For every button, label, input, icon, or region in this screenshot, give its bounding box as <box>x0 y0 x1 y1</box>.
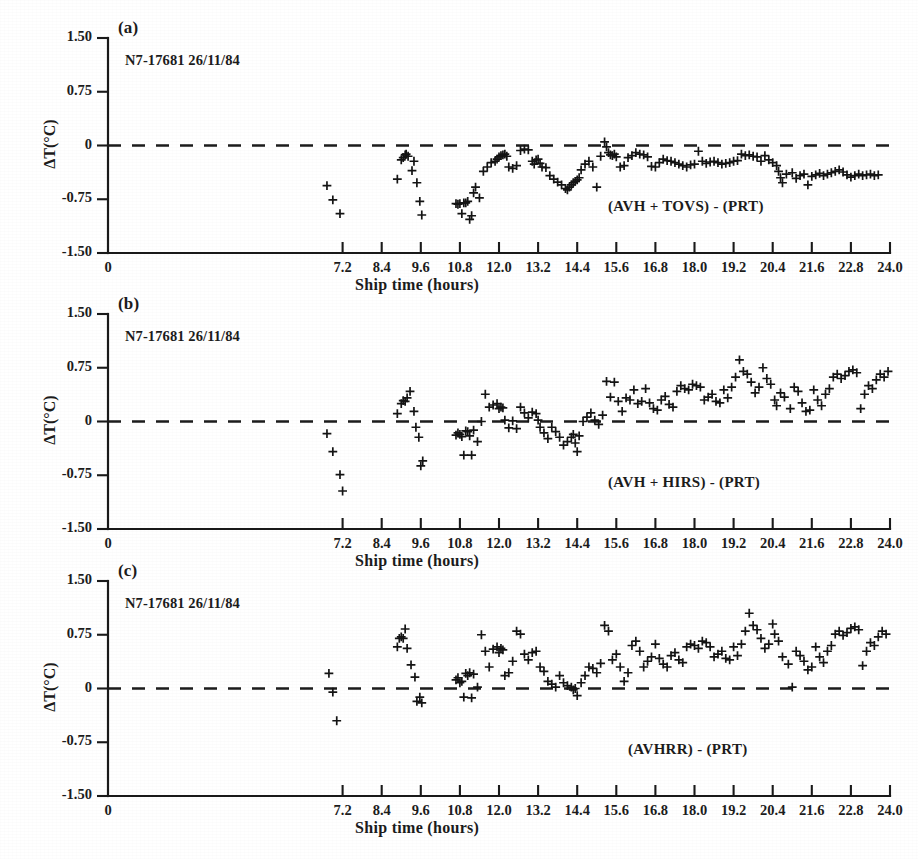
y-tick-label: -0.75 <box>10 189 92 206</box>
data-point <box>860 390 869 399</box>
data-point <box>602 143 611 152</box>
data-point <box>856 404 865 413</box>
data-point <box>694 147 703 156</box>
panel-c-tag: (c) <box>118 561 137 581</box>
data-point <box>414 433 423 442</box>
x-tick-label: 0 <box>80 259 136 276</box>
y-tick-label: 1.50 <box>10 28 92 45</box>
data-point <box>737 640 746 649</box>
y-tick-label: -0.75 <box>10 465 92 482</box>
panel-c: (c) N7-17681 26/11/84 (AVHRR) - (PRT) ΔT… <box>0 543 918 859</box>
data-point <box>473 437 482 446</box>
data-point <box>600 138 609 147</box>
data-point <box>481 390 490 399</box>
data-point <box>323 429 332 438</box>
data-point <box>733 651 742 660</box>
panel-c-series-id: N7-17681 26/11/84 <box>125 595 240 612</box>
data-point <box>467 451 476 460</box>
data-point <box>759 363 768 372</box>
data-point <box>614 397 623 406</box>
data-point <box>770 396 779 405</box>
data-point <box>620 677 629 686</box>
data-point <box>606 393 615 402</box>
data-point <box>512 424 521 433</box>
panel-a-plot <box>0 0 918 290</box>
panel-c-plot <box>0 543 918 833</box>
data-point <box>788 683 797 692</box>
x-tick-label: 24.0 <box>862 802 918 819</box>
data-point <box>798 398 807 407</box>
data-point <box>410 407 419 416</box>
y-tick-label: -1.50 <box>10 243 92 260</box>
data-point <box>534 416 543 425</box>
y-tick-label: 0 <box>10 679 92 696</box>
panel-a-series-id: N7-17681 26/11/84 <box>125 52 240 69</box>
data-point <box>469 188 478 197</box>
data-point <box>332 716 341 725</box>
panel-b-plot <box>0 276 918 566</box>
data-point <box>768 620 777 629</box>
data-point <box>809 386 818 395</box>
data-point <box>416 462 425 471</box>
data-point <box>596 152 605 161</box>
x-tick-label: 24.0 <box>862 259 918 276</box>
data-point <box>610 378 619 387</box>
data-point <box>786 404 795 413</box>
data-point <box>412 178 421 187</box>
y-tick-label: -1.50 <box>10 519 92 536</box>
y-tick-label: 0 <box>10 412 92 429</box>
data-point <box>573 447 582 456</box>
data-point <box>500 416 509 425</box>
data-point <box>641 384 650 393</box>
data-point <box>457 209 466 218</box>
data-point <box>325 669 334 678</box>
data-point <box>592 183 601 192</box>
panel-c-x-axis-label: Ship time (hours) <box>355 819 479 837</box>
data-point <box>463 427 472 436</box>
data-point <box>757 634 766 643</box>
data-point <box>415 197 424 206</box>
data-point <box>407 660 416 669</box>
data-point <box>328 196 337 205</box>
data-point <box>477 417 486 426</box>
data-point <box>651 640 660 649</box>
data-point <box>411 673 420 682</box>
data-point <box>630 386 639 395</box>
data-point <box>727 383 736 392</box>
data-point <box>747 378 756 387</box>
data-point <box>403 644 412 653</box>
data-point-group <box>323 138 883 224</box>
panel-b: (b) N7-17681 26/11/84 (AVH + HIRS) - (PR… <box>0 276 918 566</box>
data-point <box>397 633 406 642</box>
panel-b-tag: (b) <box>118 294 139 314</box>
data-point <box>467 693 476 702</box>
data-point <box>328 447 337 456</box>
data-point <box>475 193 484 202</box>
data-point <box>772 401 781 410</box>
data-point <box>417 211 426 220</box>
data-point <box>602 377 611 386</box>
y-tick-label: 0.75 <box>10 82 92 99</box>
x-tick-label: 0 <box>80 802 136 819</box>
data-point <box>774 167 783 176</box>
data-point <box>401 625 410 634</box>
data-point <box>618 407 627 416</box>
y-tick-label: -0.75 <box>10 732 92 749</box>
data-point <box>729 643 738 652</box>
data-point <box>393 643 402 652</box>
data-point <box>723 393 732 402</box>
data-point <box>393 409 402 418</box>
data-point <box>858 661 867 670</box>
panel-b-curve-label: (AVH + HIRS) - (PRT) <box>608 474 760 491</box>
data-point <box>417 698 426 707</box>
data-point <box>459 693 468 702</box>
data-point <box>508 657 517 666</box>
data-point <box>336 470 345 479</box>
panel-a-curve-label: (AVH + TOVS) - (PRT) <box>608 198 764 215</box>
data-point <box>408 166 417 175</box>
y-tick-label: 0.75 <box>10 625 92 642</box>
y-tick-label: 1.50 <box>10 304 92 321</box>
figure-container: (a) N7-17681 26/11/84 (AVH + TOVS) - (PR… <box>0 0 918 859</box>
panel-c-curve-label: (AVHRR) - (PRT) <box>628 741 748 758</box>
data-point <box>616 663 625 672</box>
